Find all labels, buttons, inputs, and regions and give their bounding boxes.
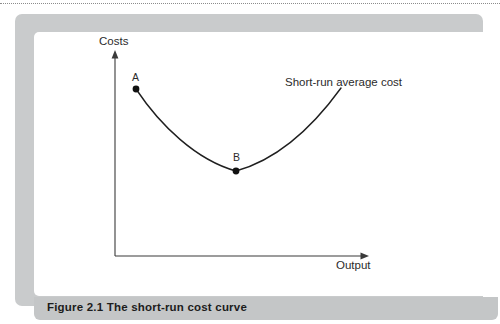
figure-caption-band: Figure 2.1 The short-run cost curve [34, 297, 498, 320]
page-top-rule [0, 3, 500, 4]
point-b-label: B [233, 152, 240, 163]
figure-caption: Figure 2.1 The short-run cost curve [47, 301, 247, 313]
curve-label: Short-run average cost [285, 77, 402, 89]
y-axis-label: Costs [99, 36, 128, 48]
plot-canvas [34, 32, 494, 296]
point-a-label: A [132, 72, 139, 83]
figure-plate: Figure 2.1 The short-run cost curve [15, 14, 483, 306]
x-axis-label: Output [336, 260, 371, 272]
